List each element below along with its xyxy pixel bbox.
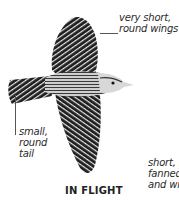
figure-caption: IN FLIGHT — [65, 185, 123, 196]
tail-annotation-line1: small, — [19, 126, 48, 137]
wings-annotation: very short, round wings — [119, 12, 178, 34]
tail-leader-line — [15, 95, 16, 135]
wings-annotation-line2: round wings — [119, 23, 178, 34]
lower-wing — [55, 92, 101, 173]
fanned-annotation-line3: and wi — [148, 179, 179, 190]
eye — [111, 81, 114, 84]
tail-annotation-line3: tail — [19, 148, 48, 159]
wings-annotation-line1: very short, — [119, 12, 178, 23]
tail-annotation-line2: round — [19, 137, 48, 148]
fanned-annotation-line2: fanned — [148, 168, 179, 179]
upper-wing — [52, 17, 98, 78]
head — [98, 73, 134, 92]
tail-annotation: small, round tail — [19, 126, 48, 159]
wings-leader-line — [100, 33, 118, 34]
fanned-annotation-line1: short, r — [148, 157, 179, 168]
fanned-annotation: short, r fanned and wi — [148, 157, 179, 190]
